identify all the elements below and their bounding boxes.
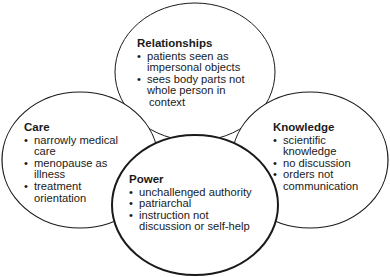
relationships-title: Relationships (137, 38, 245, 50)
power-title: Power (129, 174, 252, 186)
list-item: patients seen as impersonal objects (137, 51, 245, 74)
list-item: scientific knowledge (273, 135, 358, 158)
knowledge-list: scientific knowledge no discussion order… (273, 135, 358, 193)
relationships-label: Relationships patients seen as impersona… (137, 38, 245, 109)
relationships-list: patients seen as impersonal objects sees… (137, 51, 245, 109)
care-title: Care (24, 122, 118, 134)
power-list: unchallenged authority patriarchal instr… (129, 187, 252, 233)
list-item: menopause as illness (24, 158, 118, 181)
list-item: instruction not discussion or self-help (129, 210, 252, 233)
list-item: narrowly medical care (24, 135, 118, 158)
list-item: orders not communication (273, 169, 358, 192)
list-item: sees body parts not whole person in cont… (137, 74, 245, 109)
list-item: treatment orientation (24, 181, 118, 204)
knowledge-title: Knowledge (273, 122, 358, 134)
knowledge-label: Knowledge scientific knowledge no discus… (273, 122, 358, 193)
power-label: Power unchallenged authority patriarchal… (129, 174, 252, 233)
care-label: Care narrowly medical care menopause as … (24, 122, 118, 204)
care-list: narrowly medical care menopause as illne… (24, 135, 118, 205)
